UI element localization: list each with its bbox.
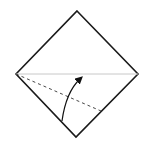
origami-diagram <box>0 0 146 149</box>
